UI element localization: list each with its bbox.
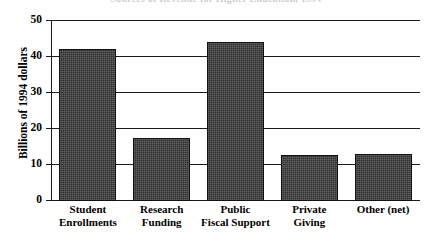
y-axis-tick-label: 50 — [12, 14, 42, 26]
y-axis-tick-label: 40 — [12, 50, 42, 62]
category-label-line: Student — [70, 203, 107, 215]
category-label-line: Fiscal Support — [199, 216, 273, 229]
bar — [355, 154, 412, 201]
category-label-line: Research — [140, 203, 183, 215]
x-axis-category-label: StudentEnrollments — [51, 203, 125, 229]
y-axis-tick-mark — [46, 164, 51, 165]
bar — [133, 138, 190, 201]
x-axis-category-label: PrivateGiving — [272, 203, 346, 229]
category-label-line: Giving — [272, 216, 346, 229]
y-axis-tick-mark — [46, 56, 51, 57]
plot-area — [51, 20, 420, 200]
y-axis-tick-label: 30 — [12, 86, 42, 98]
category-label-line: Private — [292, 203, 326, 215]
category-label-line: Funding — [125, 216, 199, 229]
bar — [207, 42, 264, 201]
category-label-line: Enrollments — [51, 216, 125, 229]
chart-title: Sources of Revenue for Higher Education,… — [0, 0, 432, 4]
category-label-line: Public — [221, 203, 251, 215]
y-axis-tick-mark — [46, 20, 51, 21]
category-label-line: Other (net) — [357, 203, 410, 215]
gridline — [51, 20, 420, 21]
x-axis-category-label: Other (net) — [346, 203, 420, 216]
y-axis-tick-label: 0 — [12, 194, 42, 206]
bar-chart-figure: Sources of Revenue for Higher Education,… — [0, 0, 432, 243]
y-axis-tick-label: 20 — [12, 122, 42, 134]
bar — [281, 155, 338, 201]
y-axis-tick-mark — [46, 92, 51, 93]
y-axis-tick-label: 10 — [12, 158, 42, 170]
x-axis-category-label: PublicFiscal Support — [199, 203, 273, 229]
x-axis-category-label: ResearchFunding — [125, 203, 199, 229]
y-axis-tick-mark — [46, 128, 51, 129]
y-axis-tick-mark — [46, 200, 51, 201]
bar — [59, 49, 116, 201]
